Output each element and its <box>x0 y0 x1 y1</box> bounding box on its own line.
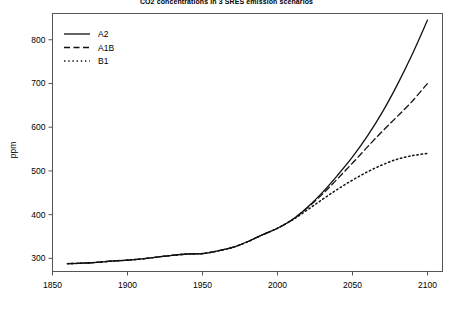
x-tick-label: 2050 <box>343 280 362 290</box>
y-axis-label: ppm <box>8 142 18 159</box>
y-tick-label: 300 <box>31 253 45 263</box>
x-tick-label: 1900 <box>118 280 137 290</box>
chart-figure: CO2 concentrations in 3 SRES emission sc… <box>0 0 453 312</box>
x-tick-label: 2000 <box>268 280 287 290</box>
legend-label-a1b: A1B <box>98 43 114 53</box>
series-line-a1b <box>68 83 428 263</box>
series-line-a2 <box>68 20 428 264</box>
x-tick-label: 2100 <box>418 280 437 290</box>
chart-legend: A2A1BB1 <box>64 29 114 66</box>
y-axis-ticks: 300400500600700800 <box>31 35 52 264</box>
legend-label-b1: B1 <box>98 56 109 66</box>
y-tick-label: 500 <box>31 166 45 176</box>
chart-plot-area: 300400500600700800 185019001950200020502… <box>0 0 453 312</box>
x-axis-ticks: 185019001950200020502100 <box>43 272 437 290</box>
chart-title: CO2 concentrations in 3 SRES emission sc… <box>0 0 453 5</box>
y-tick-label: 800 <box>31 35 45 45</box>
legend-label-a2: A2 <box>98 29 109 39</box>
x-tick-label: 1850 <box>43 280 62 290</box>
y-tick-label: 700 <box>31 78 45 88</box>
x-tick-label: 1950 <box>193 280 212 290</box>
y-tick-label: 600 <box>31 122 45 132</box>
y-tick-label: 400 <box>31 210 45 220</box>
series-line-b1 <box>68 153 428 263</box>
chart-series-group <box>68 20 428 264</box>
